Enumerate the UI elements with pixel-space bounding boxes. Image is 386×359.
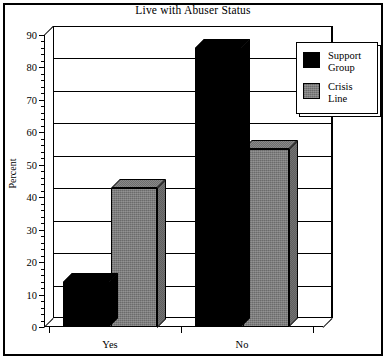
x-tick (181, 327, 182, 333)
y-tick-minor (41, 321, 44, 322)
y-tick (39, 165, 44, 166)
plot-area: 0102030405060708090 YesNo (44, 35, 332, 327)
bar-side (241, 39, 250, 327)
bar-yes-support-group (63, 282, 109, 327)
bar-face (195, 48, 241, 327)
x-tick (313, 327, 314, 333)
gridline (53, 26, 332, 27)
y-tick-minor (41, 74, 44, 75)
y-axis-label: Percent (7, 144, 18, 204)
y-tick-minor (41, 314, 44, 315)
y-tick-minor (41, 308, 44, 309)
gridline (53, 123, 332, 124)
legend-swatch-icon (303, 83, 320, 99)
bar-side (289, 140, 298, 327)
y-tick-minor (41, 275, 44, 276)
y-tick-label: 10 (27, 289, 38, 300)
y-tick-label: 30 (27, 224, 38, 235)
y-tick-minor (41, 80, 44, 81)
y-tick (39, 132, 44, 133)
bar-top (243, 140, 298, 149)
y-tick-minor (41, 301, 44, 302)
legend-label: Support Group (328, 50, 361, 73)
x-tick-label: No (236, 339, 249, 350)
bar-top (195, 39, 250, 48)
y-tick-minor (41, 236, 44, 237)
y-tick-minor (41, 54, 44, 55)
x-tick (49, 327, 50, 333)
y-tick-minor (41, 256, 44, 257)
y-tick-minor (41, 223, 44, 224)
y-tick (39, 100, 44, 101)
y-tick-minor (41, 210, 44, 211)
x-tick-label: Yes (102, 339, 117, 350)
y-tick (39, 197, 44, 198)
y-tick-minor (41, 106, 44, 107)
y-tick-label: 20 (27, 257, 38, 268)
y-tick-minor (41, 191, 44, 192)
y-tick-minor (41, 217, 44, 218)
y-tick-label: 90 (27, 30, 38, 41)
y-tick-minor (41, 48, 44, 49)
legend-item: Support Group (303, 50, 361, 73)
axis-depth-edge (323, 318, 333, 328)
y-tick-minor (41, 171, 44, 172)
y-tick-minor (41, 158, 44, 159)
y-tick-minor (41, 184, 44, 185)
y-tick-minor (41, 139, 44, 140)
y-tick-minor (41, 282, 44, 283)
gridline (53, 58, 332, 59)
bar-side (157, 179, 166, 328)
legend-label: Crisis Line (328, 81, 353, 104)
bar-face (63, 282, 109, 327)
chart-container: Live with Abuser Status Percent 01020304… (0, 0, 386, 359)
y-tick-minor (41, 288, 44, 289)
y-tick-label: 60 (27, 127, 38, 138)
y-tick-minor (41, 61, 44, 62)
y-tick-minor (41, 204, 44, 205)
y-tick-minor (41, 152, 44, 153)
y-tick (39, 295, 44, 296)
y-tick-label: 80 (27, 62, 38, 73)
y-tick-minor (41, 178, 44, 179)
y-axis-line (44, 35, 45, 327)
y-tick-minor (41, 269, 44, 270)
chart-title: Live with Abuser Status (0, 4, 386, 16)
y-tick (39, 67, 44, 68)
y-tick-minor (41, 113, 44, 114)
y-tick (39, 262, 44, 263)
bar-side (109, 273, 118, 327)
y-tick-minor (41, 249, 44, 250)
legend-item: Crisis Line (303, 81, 353, 104)
y-tick-minor (41, 126, 44, 127)
y-tick-minor (41, 243, 44, 244)
bar-top (111, 179, 166, 188)
y-tick-label: 50 (27, 159, 38, 170)
chart-legend: Support GroupCrisis Line (296, 42, 378, 114)
gridline (53, 91, 332, 92)
y-tick-minor (41, 119, 44, 120)
bar-no-support-group (195, 48, 241, 327)
bar-top (63, 273, 118, 282)
y-tick-label: 40 (27, 192, 38, 203)
y-tick-minor (41, 41, 44, 42)
legend-swatch-icon (303, 52, 320, 68)
y-tick-minor (41, 145, 44, 146)
y-tick (39, 230, 44, 231)
y-tick-minor (41, 87, 44, 88)
y-tick-minor (41, 93, 44, 94)
y-tick-label: 0 (32, 322, 37, 333)
y-tick-label: 70 (27, 94, 38, 105)
